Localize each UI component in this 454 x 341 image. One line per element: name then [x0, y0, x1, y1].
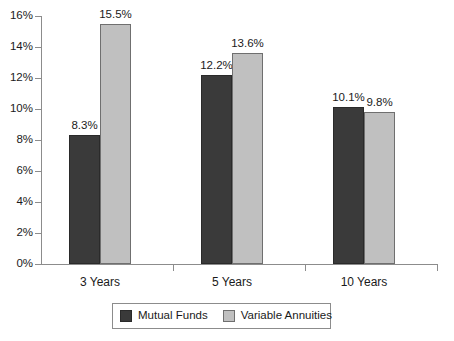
bar-5-years-variable-annuities [232, 53, 263, 264]
y-axis-tick-label: 0% [1, 258, 33, 270]
bar-value-label: 13.6% [222, 38, 273, 50]
bar-value-label: 15.5% [90, 9, 141, 21]
x-axis-line [41, 264, 438, 265]
category-label-5-years: 5 Years [182, 276, 282, 288]
bar-value-label: 9.8% [354, 97, 405, 109]
y-axis-tick-label: 16% [1, 10, 33, 22]
y-axis-tick-label: 10% [1, 103, 33, 115]
y-axis-tick-label: 6% [1, 165, 33, 177]
x-axis-tick [173, 265, 174, 271]
legend-item-mutual-funds[interactable]: Mutual Funds [120, 310, 208, 322]
bar-3-years-mutual-funds [69, 135, 100, 264]
bar-10-years-variable-annuities [364, 112, 395, 264]
y-axis-tick-label: 12% [1, 72, 33, 84]
bar-5-years-mutual-funds [201, 75, 232, 264]
x-axis-tick [305, 265, 306, 271]
legend-swatch-icon [223, 310, 235, 322]
x-axis-tick [437, 265, 438, 271]
y-axis-tick-label: 2% [1, 227, 33, 239]
y-axis-tick-label: 14% [1, 41, 33, 53]
bar-10-years-mutual-funds [333, 107, 364, 264]
legend: Mutual FundsVariable Annuities [112, 303, 331, 329]
plot-area: 8.3%15.5%12.2%13.6%10.1%9.8% [41, 16, 437, 264]
category-label-10-years: 10 Years [314, 276, 414, 288]
y-axis-tick-label: 8% [1, 134, 33, 146]
y-axis-tick-label: 4% [1, 196, 33, 208]
legend-label: Mutual Funds [138, 310, 208, 322]
legend-items: Mutual FundsVariable Annuities [113, 304, 330, 328]
bar-chart: 0%2%4%6%8%10%12%14%16% 8.3%15.5%12.2%13.… [0, 0, 454, 341]
bar-3-years-variable-annuities [100, 24, 131, 264]
legend-item-variable-annuities[interactable]: Variable Annuities [223, 310, 332, 322]
legend-swatch-icon [120, 310, 132, 322]
category-label-3-years: 3 Years [50, 276, 150, 288]
legend-label: Variable Annuities [241, 310, 332, 322]
